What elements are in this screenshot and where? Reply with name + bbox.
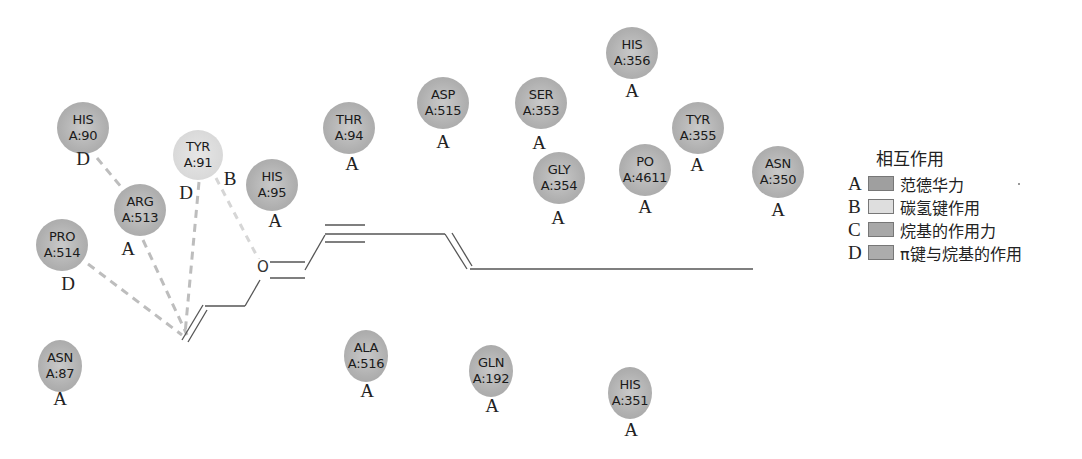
stray-dot: [1018, 183, 1020, 185]
residue-id: A:351: [612, 393, 648, 409]
residue-name: ASP: [431, 87, 455, 103]
legend-item-pi-alkyl: D π键与烷基的作用: [848, 241, 1022, 264]
interaction-type-label: A: [53, 388, 67, 410]
residue-his-356: HISA:356: [606, 27, 658, 79]
interaction-type-label: D: [76, 148, 90, 170]
interaction-type-label: A: [360, 380, 374, 402]
residue-name: PRO: [49, 229, 75, 245]
residue-tyr-91: TYRA:91: [173, 130, 223, 180]
legend-item-ch-bond: B 碳氢键作用: [848, 195, 1022, 218]
residue-name: ARG: [126, 194, 153, 210]
residue-id: A:516: [348, 356, 384, 372]
interaction-type-label: A: [624, 419, 638, 441]
residue-id: A:514: [44, 245, 80, 261]
legend-letter: A: [848, 173, 864, 195]
residue-ser-353: SERA:353: [515, 77, 567, 129]
residue-arg-513: ARGA:513: [114, 184, 166, 236]
residue-asp-515: ASPA:515: [417, 77, 469, 129]
residue-name: HIS: [620, 377, 641, 393]
legend-swatch-icon: [868, 199, 894, 214]
legend-letter: B: [848, 196, 864, 218]
legend-swatch-icon: [868, 222, 894, 237]
residue-name: SER: [529, 87, 554, 103]
residue-tyr-355: TYRA:355: [672, 102, 724, 154]
legend-swatch-icon: [868, 245, 894, 260]
legend-label: 烷基的作用力: [900, 218, 996, 242]
interaction-type-label: A: [121, 238, 135, 260]
residue-id: A:355: [680, 128, 716, 144]
residue-gly-354: GLYA:354: [533, 152, 585, 204]
interaction-type-label: A: [551, 207, 565, 229]
interaction-type-label: D: [61, 273, 75, 295]
legend-label: 碳氢键作用: [900, 195, 980, 219]
legend-letter: D: [848, 242, 864, 264]
residue-his-90: HISA:90: [57, 102, 109, 154]
interaction-line-his90: [97, 158, 122, 188]
residue-gln-192: GLNA:192: [469, 345, 513, 397]
legend-label: π键与烷基的作用: [900, 241, 1022, 265]
residue-id: A:354: [541, 178, 577, 194]
interaction-line-tyr91-d: [185, 182, 199, 334]
residue-id: A:95: [258, 185, 286, 201]
residue-name: HIS: [73, 112, 94, 128]
residue-asn-350: ASNA:350: [752, 146, 804, 198]
residue-id: A:4611: [623, 170, 667, 186]
residue-id: A:353: [523, 103, 559, 119]
residue-asn-87: ASNA:87: [38, 340, 82, 392]
residue-his-351: HISA:351: [608, 367, 652, 419]
residue-name: HIS: [262, 169, 283, 185]
residue-po-4611: POA:4611: [619, 144, 671, 196]
interaction-type-label: A: [345, 153, 359, 175]
residue-name: PO: [636, 154, 653, 170]
interaction-type-label: A: [771, 199, 785, 221]
interaction-type-label: A: [532, 132, 546, 154]
interaction-line-pro514: [88, 264, 182, 335]
interaction-type-label: B: [224, 168, 237, 190]
interaction-type-label: A: [436, 131, 450, 153]
ligand-bonds: [182, 225, 753, 342]
legend-title: 相互作用: [876, 145, 1022, 170]
residue-name: THR: [336, 112, 362, 128]
residue-name: GLN: [478, 355, 504, 371]
oxygen-atom-label: O: [257, 259, 269, 276]
interaction-type-label: A: [485, 395, 499, 417]
residue-pro-514: PROA:514: [36, 219, 88, 271]
legend: 相互作用 A 范德华力 B 碳氢键作用 C 烷基的作用力 D π键与烷基的作用: [848, 145, 1022, 264]
interaction-type-label: A: [638, 196, 652, 218]
residue-name: TYR: [686, 112, 710, 128]
interaction-type-label: A: [690, 154, 704, 176]
residue-name: ASN: [47, 350, 73, 366]
residue-his-95: HISA:95: [246, 159, 298, 211]
residue-id: A:513: [122, 210, 158, 226]
residue-id: A:94: [335, 128, 363, 144]
residue-name: TYR: [186, 139, 210, 155]
legend-item-alkyl: C 烷基的作用力: [848, 218, 1022, 241]
residue-id: A:515: [425, 103, 461, 119]
interaction-type-label: A: [268, 210, 282, 232]
residue-name: HIS: [622, 37, 643, 53]
interaction-type-label: A: [625, 80, 639, 102]
residue-name: ASN: [765, 156, 791, 172]
residue-id: A:356: [614, 53, 650, 69]
legend-swatch-icon: [868, 176, 894, 191]
residue-ala-516: ALAA:516: [344, 330, 388, 382]
residue-thr-94: THRA:94: [323, 102, 375, 154]
residue-id: A:192: [473, 371, 509, 387]
interaction-line-arg513: [143, 240, 187, 335]
residue-id: A:91: [184, 155, 212, 171]
interaction-type-label: D: [179, 182, 193, 204]
residue-id: A:90: [69, 128, 97, 144]
residue-id: A:350: [760, 172, 796, 188]
legend-label: 范德华力: [900, 172, 964, 196]
legend-item-vdw: A 范德华力: [848, 172, 1022, 195]
residue-name: ALA: [354, 340, 378, 356]
residue-id: A:87: [46, 366, 74, 382]
residue-name: GLY: [548, 162, 571, 178]
legend-letter: C: [848, 219, 864, 241]
